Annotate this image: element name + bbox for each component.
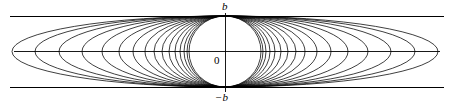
axis-label-origin: 0 xyxy=(214,55,220,66)
axes-group xyxy=(14,13,440,92)
axis-label-b-negative: −b xyxy=(215,92,228,103)
ellipse-family-figure: b −b 0 xyxy=(0,0,453,107)
axis-label-b-positive: b xyxy=(222,1,228,12)
